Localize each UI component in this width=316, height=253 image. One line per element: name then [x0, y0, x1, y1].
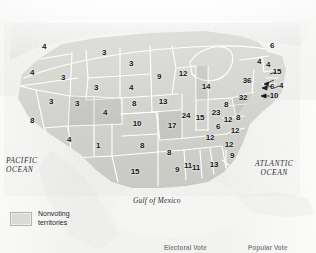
electoral-vote-arkansas: 8 [167, 149, 171, 157]
electoral-vote-idaho: 3 [61, 74, 65, 82]
electoral-vote-mississippi: 11 [184, 162, 192, 170]
legend-label-nonvoting: Nonvoting territories [38, 210, 70, 227]
electoral-vote-new-york: 36 [243, 77, 252, 85]
electoral-vote-kentucky: 6 [216, 123, 220, 131]
electoral-vote-new-jersey: 10 [270, 92, 279, 100]
electoral-vote-maine: 6 [270, 42, 274, 50]
electoral-vote-west-virginia: 8 [224, 101, 228, 109]
electoral-vote-massachusetts: 15 [273, 68, 282, 76]
electoral-vote-arizona: 4 [67, 136, 71, 144]
electoral-vote-oregon: 4 [30, 69, 34, 77]
electoral-vote-new-mexico: 1 [96, 142, 100, 150]
electoral-vote-new-hampshire: 4 [266, 61, 270, 69]
electoral-vote-vermont: 4 [257, 58, 261, 66]
map-legend: Nonvoting territories [10, 210, 70, 227]
gulf-of-mexico-label: Gulf of Mexico [133, 196, 181, 205]
electoral-vote-colorado: 4 [103, 109, 107, 117]
atlantic-ocean-line1: ATLANTIC [255, 159, 293, 168]
electoral-vote-virginia: 12 [224, 116, 233, 124]
electoral-vote-ohio: 23 [212, 109, 221, 117]
electoral-vote-texas: 15 [131, 168, 140, 176]
electoral-vote-michigan: 14 [202, 83, 211, 91]
pacific-ocean-label: PACIFIC OCEAN [6, 156, 38, 175]
bottom-captions: Electoral Vote Popular Vote [0, 242, 316, 253]
legend-label-line1: Nonvoting [38, 210, 70, 219]
electoral-vote-north-carolina: 12 [231, 127, 240, 135]
electoral-vote-north-dakota: 3 [129, 60, 133, 68]
legend-label-line2: territories [38, 219, 70, 228]
electoral-vote-alabama: 11 [192, 164, 200, 172]
electoral-vote-florida: 9 [230, 152, 234, 160]
electoral-vote-iowa: 13 [159, 98, 168, 106]
caption-electoral-vote: Electoral Vote [164, 244, 207, 251]
electoral-vote-georgia: 13 [210, 161, 219, 169]
electoral-vote-wyoming: 3 [94, 84, 98, 92]
pacific-ocean-line2: OCEAN [6, 165, 38, 174]
electoral-vote-nebraska: 8 [132, 100, 136, 108]
electoral-vote-nevada: 3 [49, 98, 53, 106]
atlantic-ocean-label: ATLANTIC OCEAN [255, 159, 293, 178]
electoral-vote-kansas: 10 [133, 120, 142, 128]
legend-swatch-nonvoting [10, 212, 32, 226]
electoral-vote-tennessee: 12 [206, 134, 215, 142]
electoral-vote-washington: 4 [42, 43, 46, 51]
electoral-vote-connecticut: 6 [270, 83, 274, 91]
electoral-vote-indiana: 15 [196, 114, 205, 122]
atlantic-ocean-line2: OCEAN [255, 168, 293, 177]
electoral-vote-pennsylvania: 32 [239, 94, 248, 102]
electoral-vote-utah: 3 [75, 100, 79, 108]
electoral-vote-california: 8 [30, 117, 34, 125]
electoral-vote-wisconsin: 12 [179, 70, 188, 78]
electoral-vote-louisiana: 9 [175, 166, 179, 174]
electoral-vote-south-dakota: 4 [129, 84, 133, 92]
caption-popular-vote: Popular Vote [248, 244, 288, 251]
electoral-vote-minnesota: 9 [157, 73, 161, 81]
electoral-map-figure: 4433334833841041815913178912241415236121… [0, 0, 316, 253]
electoral-vote-missouri: 17 [168, 122, 177, 130]
electoral-vote-illinois: 24 [182, 112, 191, 120]
electoral-vote-oklahoma: 8 [140, 142, 144, 150]
electoral-vote-maryland: 8 [236, 114, 240, 122]
pacific-ocean-line1: PACIFIC [6, 156, 38, 165]
electoral-vote-montana: 3 [102, 49, 106, 57]
electoral-vote-rhode-island: 4 [279, 82, 283, 90]
electoral-vote-south-carolina: 12 [225, 141, 234, 149]
